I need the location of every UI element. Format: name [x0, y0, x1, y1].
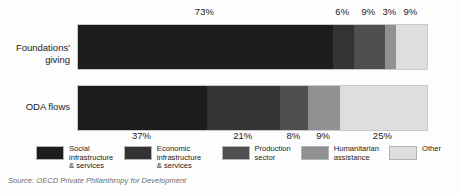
value-label: 73% [195, 6, 214, 17]
legend-label: Other [422, 145, 441, 154]
value-label: 6% [335, 6, 349, 17]
bar-segment-production-sector [280, 86, 308, 130]
category-label-foundations: Foundations' giving [8, 42, 70, 65]
value-label: 9% [403, 6, 417, 17]
value-label: 25% [373, 130, 392, 141]
legend-item[interactable]: Economic infrastructure & services [124, 145, 212, 171]
bar-segment-other [396, 25, 427, 69]
value-labels-foundations: 73%6%9%3%9% [77, 6, 426, 22]
legend-label: Social infrastructure & services [69, 145, 114, 171]
legend-item[interactable]: Other [389, 145, 441, 160]
legend-swatch-icon [301, 146, 329, 160]
category-label-foundations-line1: Foundations' [8, 42, 70, 54]
legend-label: Economic infrastructure & services [157, 145, 212, 171]
value-label: 3% [382, 6, 396, 17]
legend-swatch-icon [36, 146, 64, 160]
bar-segment-humanitarian-assistance [385, 25, 395, 69]
bar-oda-flows [77, 85, 428, 131]
value-label: 21% [233, 130, 252, 141]
value-label: 9% [362, 6, 376, 17]
category-label-oda: ODA flows [8, 101, 70, 113]
legend-item[interactable]: Production sector [222, 145, 291, 162]
bar-segment-social-infrastructure-services [78, 86, 207, 130]
bar-segment-production-sector [354, 25, 385, 69]
legend-swatch-icon [389, 146, 417, 160]
bar-foundations-giving [77, 24, 428, 70]
category-label-oda-line1: ODA flows [8, 101, 70, 113]
legend-label: Humanitarian assistance [334, 145, 379, 162]
value-label: 9% [316, 130, 330, 141]
legend-swatch-icon [222, 146, 250, 160]
chart-figure: 73%6%9%3%9% Foundations' giving ODA flow… [0, 0, 459, 193]
bar-segment-economic-infrastructure-services [333, 25, 354, 69]
legend-label: Production sector [255, 145, 291, 162]
bar-segment-humanitarian-assistance [308, 86, 339, 130]
value-label: 8% [287, 130, 301, 141]
legend-swatch-icon [124, 146, 152, 160]
bar-segment-social-infrastructure-services [78, 25, 333, 69]
bar-segment-economic-infrastructure-services [207, 86, 280, 130]
legend-item[interactable]: Social infrastructure & services [36, 145, 114, 171]
value-label: 37% [132, 130, 151, 141]
category-label-foundations-line2: giving [8, 54, 70, 66]
source-note: Source: OECD Private Philanthropy for De… [8, 176, 186, 185]
bar-segment-other [340, 86, 427, 130]
chart-legend: Social infrastructure & servicesEconomic… [36, 145, 451, 165]
legend-item[interactable]: Humanitarian assistance [301, 145, 379, 162]
plot-area: 73%6%9%3%9% Foundations' giving ODA flow… [0, 0, 459, 140]
